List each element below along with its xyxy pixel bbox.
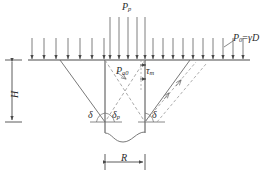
label-angle-right: δ — [152, 110, 157, 120]
break-line-wavy — [105, 132, 145, 142]
label-angle-left: δ — [88, 110, 93, 120]
label-shear-stress: τm — [146, 66, 154, 77]
leader-line-surface-pressure — [224, 41, 233, 47]
label-top-load: Pp — [122, 2, 131, 13]
label-interior-pressure: Pa0 — [116, 66, 129, 77]
surcharge-arrows-right — [153, 38, 243, 59]
label-radius-R: R — [121, 153, 127, 163]
surcharge-arrows-left — [32, 38, 104, 59]
label-angle-mid: δp — [112, 110, 120, 121]
label-depth-H: H — [10, 91, 20, 98]
diagram-canvas — [0, 0, 263, 174]
label-surface-pressure: P0=γD — [233, 33, 259, 44]
technical-diagram-figure: Pp P0=γD Pa0 τm H R δ δp δ — [0, 0, 263, 174]
surcharge-arrows-center — [110, 17, 145, 59]
